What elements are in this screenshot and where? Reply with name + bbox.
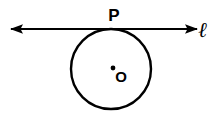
label-line-ell: ℓ <box>199 18 208 42</box>
geometry-canvas: P O ℓ <box>0 0 221 118</box>
label-center-point-o: O <box>115 68 127 85</box>
geometry-figure: P O ℓ <box>0 0 221 118</box>
label-tangent-point-p: P <box>108 6 119 25</box>
